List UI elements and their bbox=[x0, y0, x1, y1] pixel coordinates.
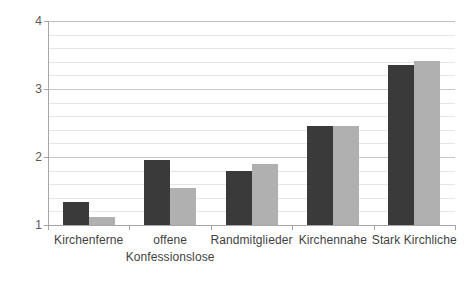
x-axis-category-label: Kirchennahe bbox=[286, 232, 379, 249]
bar-group bbox=[63, 0, 115, 225]
x-label-line: Kirchenferne bbox=[42, 232, 135, 249]
x-label-line: Konfessionslose bbox=[123, 249, 216, 266]
bar-series-a bbox=[388, 65, 414, 225]
bar-series-a bbox=[144, 160, 170, 225]
bar-chart: 1234 KirchenferneoffeneKonfessionsloseRa… bbox=[0, 0, 472, 281]
bars-layer bbox=[48, 0, 455, 226]
x-axis-labels: KirchenferneoffeneKonfessionsloseRandmit… bbox=[48, 232, 455, 280]
bar-series-b bbox=[414, 61, 440, 225]
bar-series-b bbox=[89, 217, 115, 225]
y-tick-mark bbox=[44, 157, 48, 158]
x-label-line: Kirchennahe bbox=[286, 232, 379, 249]
bar-group bbox=[226, 0, 278, 225]
x-axis-category-label: Randmitglieder bbox=[205, 232, 298, 249]
x-axis-category-label: offeneKonfessionslose bbox=[123, 232, 216, 266]
y-tick-label: 4 bbox=[4, 14, 42, 28]
bar-series-a bbox=[63, 202, 89, 225]
bar-group bbox=[307, 0, 359, 225]
bar-series-a bbox=[226, 171, 252, 225]
x-label-line: Randmitglieder bbox=[205, 232, 298, 249]
x-tick-mark bbox=[48, 225, 49, 230]
x-tick-mark bbox=[129, 225, 130, 230]
x-tick-mark bbox=[374, 225, 375, 230]
y-tick-label: 2 bbox=[4, 150, 42, 164]
bar-series-a bbox=[307, 126, 333, 225]
x-tick-mark bbox=[292, 225, 293, 230]
y-tick-mark bbox=[44, 89, 48, 90]
x-tick-mark bbox=[211, 225, 212, 230]
x-tick-mark bbox=[455, 225, 456, 230]
bar-group bbox=[144, 0, 196, 225]
x-label-line: Stark Kirchliche bbox=[368, 232, 461, 249]
bar-series-b bbox=[170, 188, 196, 225]
x-label-line: offene bbox=[123, 232, 216, 249]
x-axis-category-label: Kirchenferne bbox=[42, 232, 135, 249]
y-tick-label: 3 bbox=[4, 82, 42, 96]
bar-series-b bbox=[252, 164, 278, 225]
y-tick-label: 1 bbox=[4, 218, 42, 232]
bar-series-b bbox=[333, 126, 359, 225]
y-tick-mark bbox=[44, 21, 48, 22]
bar-group bbox=[388, 0, 440, 225]
x-axis-category-label: Stark Kirchliche bbox=[368, 232, 461, 249]
y-axis: 1234 bbox=[0, 0, 42, 281]
